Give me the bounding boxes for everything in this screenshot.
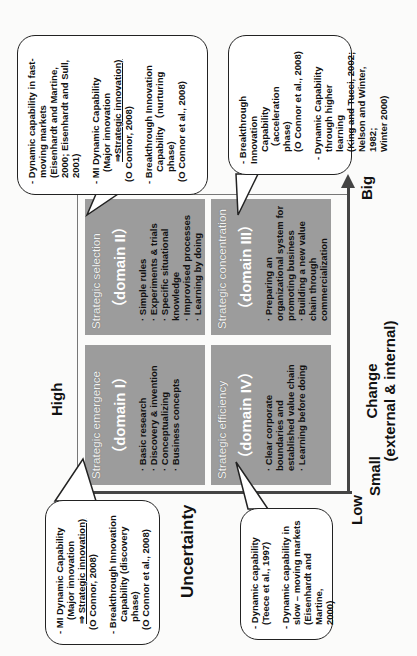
quadrant-items: Basic research Discovery & invention Con… — [137, 351, 181, 479]
uncertainty-axis-title: Uncertainty — [178, 504, 198, 598]
callout-line: Nelson and Winter, 1982; — [356, 46, 378, 164]
quadrant-domain-3: Strategic concentration （domain III） Pre… — [211, 199, 331, 335]
uncertainty-axis-line — [76, 491, 352, 494]
list-item: Experiments & trials — [148, 205, 159, 321]
change-big-label: Big — [358, 176, 375, 200]
callout-line: - Breakthrough Innovation — [143, 46, 154, 184]
strategy-domain-diagram: Strategic emergence （domain I） Basic res… — [0, 0, 417, 656]
callout-line: (Eisenhardt and Martine, — [302, 519, 324, 629]
callout-line: (O Connor, 2008) — [123, 46, 134, 184]
callout-line: ⇒Strategic innovation) — [112, 46, 123, 184]
quadrant-title: Strategic emergence — [90, 351, 102, 479]
change-axis-subtitle: (external & internal) — [381, 316, 399, 466]
callout-line: 2000) — [324, 519, 335, 629]
callout-domain-4: - Dynamic capability (Teece et al., 1997… — [240, 508, 333, 640]
list-item: Conceptualizing — [159, 351, 170, 471]
callout-line: ⇒ Strategic innovation) — [76, 511, 87, 634]
frame-top-edge — [77, 195, 78, 492]
change-axis-title: Change (external & internal) — [363, 316, 399, 466]
change-axis-title-main: Change — [363, 316, 381, 466]
list-item: Basic research — [137, 351, 148, 471]
callout-line: - Dynamic Capability — [312, 46, 323, 164]
callout-line: (Teece et al., 1997) — [260, 519, 271, 629]
quadrant-items: Clear corporate boundaries and establish… — [263, 351, 307, 479]
callout-line: (O Connor et al., 2008) — [176, 46, 187, 184]
callout-line: (Major innovation — [65, 511, 76, 634]
callout-line: moving markets — [37, 46, 48, 184]
callout-line: (Major innovation — [101, 46, 112, 184]
callout-line: 2000; Eisenhardt and Sull, — [59, 46, 70, 184]
list-item: Improvised processes — [181, 205, 192, 321]
callout-line: - MI Dynamic Capability — [90, 46, 101, 184]
list-item: Learning before doing — [296, 351, 307, 471]
callout-line: - Dynamic capability in fast- — [26, 46, 37, 184]
callout-line: through higher learning — [323, 46, 345, 164]
quadrant-domain-2: Strategic selection （domain II） Simple r… — [85, 199, 205, 335]
quadrant-domain-1: Strategic emergence （domain I） Basic res… — [85, 345, 205, 485]
quadrant-domain-label: （domain IV） — [234, 351, 255, 479]
callout-line: Capability （acceleration — [259, 46, 281, 164]
callout-line: (O Connor et al., 2008) — [292, 46, 303, 164]
quadrant-domain-label: （domain I） — [108, 351, 129, 479]
list-item: Preparing an organizational system for p… — [263, 205, 296, 321]
callout-domain-1: - MI Dynamic Capability (Major innovatio… — [45, 500, 160, 645]
callout-line: - Breakthrough Innovation — [237, 46, 259, 164]
quadrant-title: Strategic selection — [90, 205, 102, 329]
list-item: Building a new value chain through comme… — [296, 205, 329, 321]
quadrant-items: Simple rules Experiments & trials Specif… — [137, 205, 203, 329]
callout-line: - Dynamic capability in — [280, 519, 291, 629]
quadrant-title: Strategic concentration — [216, 205, 228, 329]
callout-line: - MI Dynamic Capability — [54, 511, 65, 634]
list-item: Learning by doing — [192, 205, 203, 321]
uncertainty-high-label: High — [48, 383, 65, 416]
callout-line: - Dynamic capability — [249, 519, 260, 629]
uncertainty-low-label: Low — [348, 495, 365, 525]
quadrant-items: Preparing an organizational system for p… — [263, 205, 329, 329]
quadrant-domain-label: （domain II） — [108, 205, 129, 329]
list-item: Clear corporate boundaries and establish… — [263, 351, 296, 471]
callout-line: phase) — [281, 46, 292, 164]
callout-line: 2001) — [70, 46, 81, 184]
callout-domain-3: - Breakthrough Innovation Capability （ac… — [228, 35, 352, 175]
list-item: Specific situational knowledge — [159, 205, 181, 321]
quadrant-domain-label: （domain III） — [234, 205, 255, 329]
change-arrow-icon — [341, 174, 355, 188]
quadrant-title: Strategic efficiency — [216, 351, 228, 479]
callout-line: Winter 2000) — [378, 46, 389, 164]
change-axis-line — [347, 186, 350, 492]
callout-domain-2: - Dynamic capability in fast- moving mar… — [17, 35, 208, 195]
callout-line: Capability （nurturing — [154, 46, 165, 184]
list-item: Simple rules — [137, 205, 148, 321]
callout-line: (O Connor, 2008) — [87, 511, 98, 634]
callout-line: (King and Tucci, 2002; — [345, 46, 356, 164]
list-item: Business concepts — [170, 351, 181, 471]
callout-line: phase) — [165, 46, 176, 184]
callout-line: slow – moving markets — [291, 519, 302, 629]
quadrant-domain-4: Strategic efficiency （domain IV） Clear c… — [211, 345, 331, 485]
callout-line: phase) — [129, 511, 140, 634]
list-item: Discovery & invention — [148, 351, 159, 471]
uncertainty-arrow-icon — [64, 485, 78, 499]
callout-line: - Breakthrough Innovation — [107, 511, 118, 634]
callout-line: (Eisenhardt and Martine, — [48, 46, 59, 184]
callout-line: Capability (discovery — [118, 511, 129, 634]
callout-line: (O Connor et al., 2008) — [140, 511, 151, 634]
